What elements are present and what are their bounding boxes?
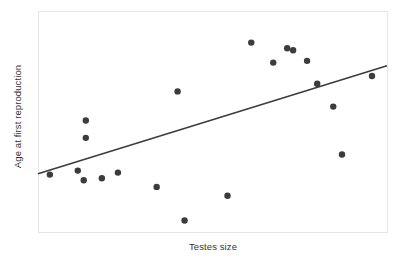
data-point <box>304 58 310 64</box>
y-axis-label: Age at first reproduction <box>13 64 24 167</box>
data-point <box>83 117 89 123</box>
x-axis-label-container: Testes size <box>38 236 388 254</box>
data-point <box>81 177 87 183</box>
regression-trendline <box>38 66 387 174</box>
data-points-group <box>47 39 376 223</box>
plot-canvas <box>0 0 413 263</box>
data-point <box>174 88 180 94</box>
data-point <box>83 135 89 141</box>
data-point <box>339 151 345 157</box>
data-point <box>369 73 375 79</box>
data-point <box>290 47 296 53</box>
data-point <box>47 171 53 177</box>
plot-frame <box>39 12 388 233</box>
data-point <box>284 45 290 51</box>
data-point <box>153 184 159 190</box>
data-point <box>248 39 254 45</box>
scatter-plot-figure: Age at first reproduction Testes size <box>0 0 413 263</box>
data-point <box>75 167 81 173</box>
regression-line-group <box>38 66 387 174</box>
data-point <box>314 81 320 87</box>
data-point <box>224 193 230 199</box>
data-point <box>181 217 187 223</box>
y-axis-label-container: Age at first reproduction <box>0 0 36 232</box>
data-point <box>270 59 276 65</box>
x-axis-label: Testes size <box>189 241 237 252</box>
data-point <box>330 103 336 109</box>
data-point <box>115 169 121 175</box>
data-point <box>99 175 105 181</box>
